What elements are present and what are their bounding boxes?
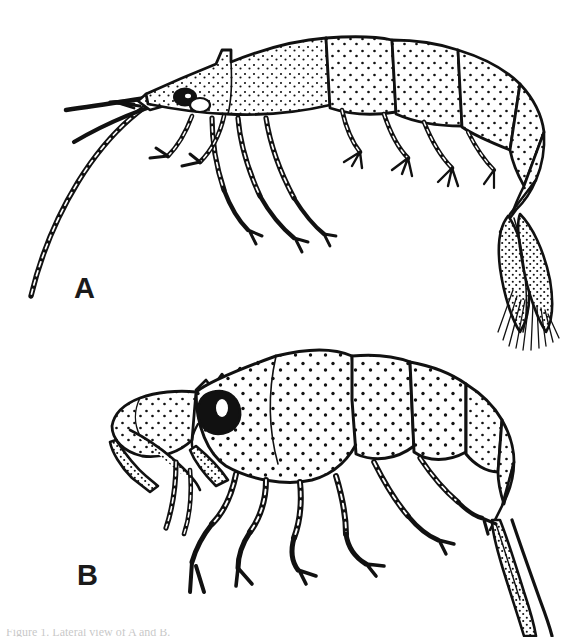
figure-illustration xyxy=(0,0,579,637)
abdomen-b xyxy=(352,355,514,530)
figure-caption-text: Figure 1. Lateral view of A and B. xyxy=(6,629,476,637)
specimen-a xyxy=(31,37,559,350)
legs-a xyxy=(150,116,336,252)
panel-label-a: A xyxy=(74,274,95,303)
panel-label-b: B xyxy=(77,561,98,590)
tail-b xyxy=(492,520,552,636)
abdomen-a xyxy=(326,37,544,232)
figure-caption: Figure 1. Lateral view of A and B. xyxy=(6,629,476,637)
antenna-a-long xyxy=(31,86,188,296)
legs-b xyxy=(190,458,496,592)
figure-plate: A B Figure 1. Lateral view of A and B. xyxy=(0,0,579,637)
specimen-b xyxy=(110,350,552,636)
tail-fan-a xyxy=(498,214,559,350)
